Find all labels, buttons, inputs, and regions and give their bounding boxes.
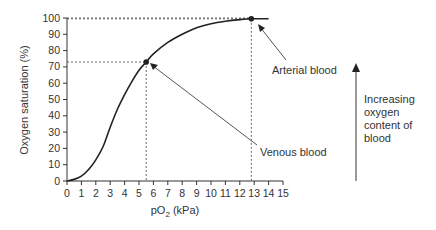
x-tick-label: 8	[179, 187, 185, 199]
x-tick-label: 11	[220, 187, 231, 199]
data-points	[143, 16, 254, 65]
x-tick-label: 0	[64, 187, 70, 199]
x-tick-label: 3	[107, 187, 113, 199]
y-tick-label: 90	[48, 28, 60, 40]
arterial-arrowhead	[258, 24, 265, 32]
venous-blood-label: Venous blood	[260, 146, 327, 158]
y-tick-label: 10	[48, 158, 60, 170]
arterial-arrow	[260, 27, 286, 60]
x-axis-title: pO2 (kPa)	[151, 204, 199, 219]
y-tick-label: 40	[48, 109, 60, 121]
venous-blood-point	[143, 59, 149, 65]
x-tick-label: 13	[248, 187, 260, 199]
x-tick-label: 2	[93, 187, 99, 199]
x-tick-label: 7	[165, 187, 171, 199]
arterial-blood-point	[249, 16, 255, 22]
x-tick-label: 14	[263, 187, 275, 199]
y-axis-title: Oxygen saturation (%)	[18, 45, 30, 154]
y-tick-label: 20	[48, 142, 60, 154]
x-tick-label: 12	[234, 187, 246, 199]
x-tick-label: 6	[150, 187, 156, 199]
y-tick-label: 80	[48, 44, 60, 56]
increasing-oxygen-arrowhead	[352, 63, 360, 72]
axes: 0102030405060708090100012345678910111213…	[42, 12, 289, 200]
y-tick-label: 0	[54, 175, 60, 187]
x-tick-label: 1	[78, 187, 84, 199]
increasing-oxygen-label: Increasing oxygen content of blood	[364, 93, 418, 144]
y-tick-label: 50	[48, 93, 60, 105]
x-tick-label: 10	[205, 187, 217, 199]
x-tick-label: 4	[122, 187, 128, 199]
x-tick-label: 9	[194, 187, 200, 199]
arterial-blood-label: Arterial blood	[272, 64, 337, 76]
x-tick-label: 5	[136, 187, 142, 199]
saturation-curve	[67, 19, 269, 181]
venous-arrow	[153, 66, 257, 145]
oxygen-dissociation-chart: 0102030405060708090100012345678910111213…	[0, 0, 436, 230]
chart-canvas: 0102030405060708090100012345678910111213…	[0, 0, 436, 230]
y-tick-label: 30	[48, 126, 60, 138]
y-tick-label: 70	[48, 60, 60, 72]
y-tick-label: 60	[48, 77, 60, 89]
x-tick-label: 15	[277, 187, 289, 199]
guide-lines	[67, 18, 251, 181]
y-tick-label: 100	[42, 12, 60, 24]
